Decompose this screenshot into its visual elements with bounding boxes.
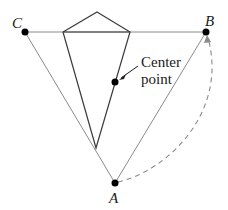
center-point-label-line1: Center [141,54,181,70]
center-point-label-line2: point [141,71,173,87]
point-b-dot [203,29,210,36]
point-c-dot [22,29,29,36]
arc-arrowhead-icon [204,35,211,43]
rotation-diagram: C B A Center point [0,0,228,210]
label-b: B [205,13,214,29]
label-c: C [12,15,23,31]
point-a-dot [112,180,119,187]
center-point-dot [112,79,119,86]
label-a: A [108,190,119,206]
